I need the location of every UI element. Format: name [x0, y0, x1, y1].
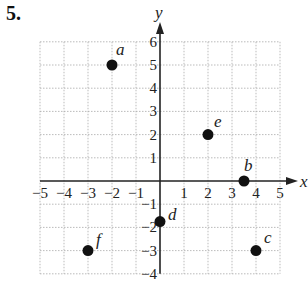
- point-a: [107, 60, 118, 71]
- point-label-b: b: [244, 156, 253, 175]
- y-tick-label: 1: [150, 150, 158, 166]
- y-axis-arrow-icon: [156, 22, 164, 34]
- x-axis-arrow-icon: [286, 177, 298, 185]
- point-label-d: d: [168, 205, 177, 224]
- y-tick-label: −3: [141, 243, 157, 259]
- x-tick-label: −2: [104, 185, 120, 201]
- y-tick-label: 5: [150, 57, 158, 73]
- point-d: [155, 216, 166, 227]
- y-tick-label: −4: [141, 266, 157, 282]
- coordinate-plane: xy−5−4−3−2−112345−4−3−2−1123456abcdef: [0, 0, 308, 283]
- x-axis-label: x: [299, 172, 308, 191]
- x-tick-label: 2: [204, 185, 212, 201]
- point-f: [83, 245, 94, 256]
- point-label-e: e: [214, 112, 222, 131]
- point-label-a: a: [116, 40, 125, 59]
- x-tick-label: 1: [180, 185, 188, 201]
- point-b: [239, 176, 250, 187]
- y-tick-label: −1: [141, 196, 157, 212]
- y-tick-label: 3: [150, 103, 158, 119]
- y-tick-label: 6: [150, 34, 158, 50]
- y-tick-label: 2: [150, 127, 158, 143]
- x-tick-label: 4: [252, 185, 260, 201]
- x-tick-label: 3: [228, 185, 236, 201]
- x-tick-label: −4: [56, 185, 72, 201]
- point-label-f: f: [96, 230, 103, 249]
- y-tick-label: 4: [150, 80, 158, 96]
- x-tick-label: −5: [32, 185, 48, 201]
- y-axis-label: y: [153, 3, 163, 22]
- point-c: [251, 245, 262, 256]
- x-tick-label: −3: [80, 185, 96, 201]
- point-e: [203, 129, 214, 140]
- point-label-c: c: [264, 228, 272, 247]
- x-tick-label: 5: [276, 185, 284, 201]
